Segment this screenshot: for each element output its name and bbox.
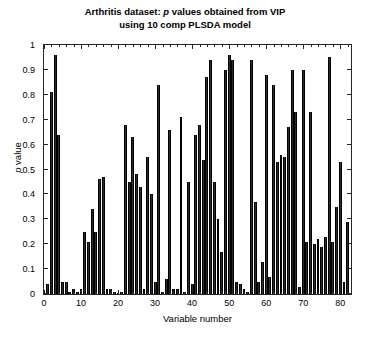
x-tick-mark	[288, 45, 289, 47]
x-tick-label: 10	[66, 298, 96, 308]
x-tick-mark	[303, 45, 304, 49]
bar	[194, 135, 197, 294]
x-tick-mark	[311, 292, 312, 294]
x-tick-mark	[259, 45, 260, 47]
bar	[291, 70, 294, 294]
x-tick-mark	[140, 45, 141, 47]
bar	[280, 155, 283, 294]
bar	[298, 287, 301, 294]
x-tick-mark	[333, 45, 334, 47]
x-tick-mark	[111, 45, 112, 47]
y-tick-mark	[347, 218, 351, 219]
x-tick-mark	[155, 45, 156, 49]
bar	[68, 292, 71, 294]
x-tick-label: 60	[251, 298, 281, 308]
x-tick-mark	[96, 292, 97, 294]
bar	[317, 239, 320, 294]
y-tick-mark	[347, 243, 351, 244]
x-tick-mark	[311, 45, 312, 47]
x-tick-mark	[266, 290, 267, 294]
x-tick-mark	[325, 45, 326, 47]
x-tick-mark	[185, 45, 186, 47]
x-tick-mark	[51, 292, 52, 294]
bar	[106, 289, 109, 294]
bar	[294, 112, 297, 294]
x-tick-mark	[148, 45, 149, 47]
y-axis-title: p value	[12, 108, 23, 208]
y-tick-mark	[347, 94, 351, 95]
bar	[61, 282, 64, 294]
x-tick-mark	[140, 292, 141, 294]
bar	[205, 77, 208, 294]
bar	[224, 70, 227, 294]
bar	[309, 112, 312, 294]
x-tick-label: 70	[288, 298, 318, 308]
x-tick-label: 50	[214, 298, 244, 308]
bar	[283, 157, 286, 294]
x-tick-label: 80	[325, 298, 355, 308]
bar	[202, 160, 205, 294]
x-tick-mark	[200, 45, 201, 47]
bar	[54, 55, 57, 294]
bar	[57, 135, 60, 294]
bar	[198, 125, 201, 294]
bar	[98, 179, 101, 294]
y-axis-title-p-symbol: p	[12, 168, 23, 173]
bar	[339, 162, 342, 294]
bar	[343, 282, 346, 294]
x-tick-mark	[192, 290, 193, 294]
bar	[250, 60, 253, 294]
bar	[239, 284, 242, 294]
x-tick-mark	[259, 292, 260, 294]
x-tick-mark	[170, 45, 171, 47]
x-tick-mark	[244, 45, 245, 47]
y-tick-mark	[347, 69, 351, 70]
chart-title-line1: Arthritis dataset: p values obtained fro…	[85, 6, 286, 17]
x-tick-mark	[229, 45, 230, 49]
bar	[91, 209, 94, 294]
bar	[213, 182, 216, 294]
x-tick-mark	[340, 290, 341, 294]
y-tick-mark	[44, 94, 48, 95]
x-tick-mark	[266, 45, 267, 49]
x-tick-mark	[88, 292, 89, 294]
y-tick-mark	[44, 69, 48, 70]
y-tick-mark	[44, 119, 48, 120]
y-tick-label: 0.8	[0, 91, 35, 100]
x-tick-mark	[59, 45, 60, 47]
x-tick-mark	[296, 45, 297, 47]
bar	[231, 60, 234, 294]
x-tick-mark	[333, 292, 334, 294]
bar	[346, 222, 349, 294]
x-tick-mark	[96, 45, 97, 47]
x-tick-mark	[340, 45, 341, 49]
x-tick-mark	[155, 290, 156, 294]
y-tick-mark	[347, 119, 351, 120]
bar	[139, 187, 142, 294]
bar	[150, 194, 153, 294]
x-tick-mark	[66, 292, 67, 294]
x-tick-mark	[207, 292, 208, 294]
x-tick-mark	[66, 45, 67, 47]
bar	[313, 244, 316, 294]
x-tick-mark	[133, 292, 134, 294]
x-tick-mark	[296, 292, 297, 294]
x-tick-mark	[237, 45, 238, 47]
bar	[320, 247, 323, 294]
bar	[217, 219, 220, 294]
x-tick-mark	[81, 290, 82, 294]
x-tick-mark	[74, 45, 75, 47]
x-tick-mark	[288, 292, 289, 294]
bar	[261, 262, 264, 294]
y-tick-mark	[347, 193, 351, 194]
x-tick-mark	[148, 292, 149, 294]
bar	[254, 202, 257, 294]
y-tick-mark	[44, 218, 48, 219]
bar	[276, 162, 279, 294]
bar	[172, 289, 175, 294]
bar	[331, 242, 334, 294]
x-axis-tick-labels: 01020304050607080	[43, 298, 352, 312]
x-tick-mark	[44, 45, 45, 49]
y-tick-mark	[44, 268, 48, 269]
x-tick-mark	[51, 45, 52, 47]
